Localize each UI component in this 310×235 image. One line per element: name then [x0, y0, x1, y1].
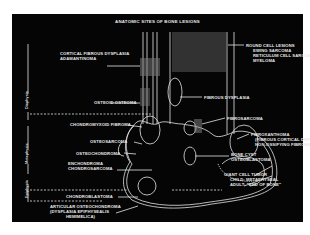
label-chondromyxoid-fibroma: CHONDROMYXOID FIBROMA [70, 122, 131, 127]
label-adamantinoma: ADAMANTINOMA [60, 56, 96, 61]
label-fibrosarcoma: FIBROSARCOMA [227, 116, 263, 121]
label-chondroblastoma: CHONDROBLASTOMA [66, 194, 113, 199]
diagram-panel: ANATOMIC SITES OF BONE LESIONS [12, 14, 303, 222]
label-gct-adult: ADULT: "END OF BONE" [230, 182, 281, 187]
region-label-diaphysis: Diaphysis [25, 91, 29, 109]
label-fibrous-dysplasia: FIBROUS DYSPLASIA [204, 95, 250, 100]
label-osteochondroma: OSTEOCHONDROMA [76, 151, 120, 156]
label-chondrosarcoma: CHONDROSARCOMA [68, 166, 113, 171]
label-osteoid-osteoma: OSTEOID OSTEOMA [94, 100, 137, 105]
label-fibroxanthoma-sub2: NON-OSSIFYING FIBROMA) [255, 142, 310, 147]
label-hemimelica: HEMIMELICA) [66, 214, 95, 219]
region-label-metaphysis: Metaphysis [25, 143, 29, 164]
label-myeloma: MYELOMA [253, 58, 275, 63]
region-label-epiphysis: Epiphysis [25, 180, 29, 198]
label-osteoblastoma: OSTEOBLASTOMA [231, 157, 271, 162]
label-osteosarcoma: OSTEOSARCOMA [90, 139, 128, 144]
